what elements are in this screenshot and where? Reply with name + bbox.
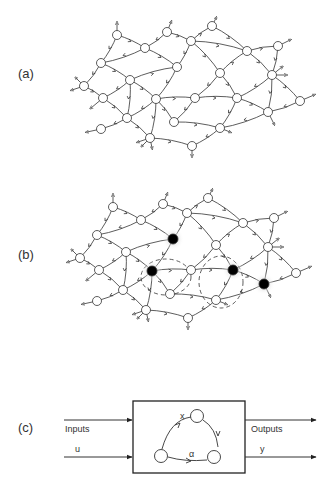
edge-arrowhead	[89, 243, 92, 246]
edge-arrowhead	[117, 86, 120, 89]
edge-arrowhead	[156, 37, 159, 40]
edge-arrowhead	[113, 258, 116, 261]
edge-arrowhead	[252, 232, 255, 235]
network-node	[122, 248, 131, 257]
network-node	[166, 290, 175, 299]
network-node	[152, 95, 161, 104]
edge-arrowhead	[194, 123, 197, 126]
edge-arrowhead	[112, 69, 115, 72]
edge-arrowhead	[190, 295, 193, 298]
network-node	[268, 71, 277, 80]
network-node	[243, 47, 252, 56]
edge-arrowhead	[93, 71, 96, 74]
edge-arrowhead	[108, 241, 111, 244]
network-node	[93, 231, 102, 240]
highlighted-node	[259, 279, 269, 289]
network-node	[187, 266, 196, 275]
edge-arrowhead	[146, 245, 149, 248]
edge-arrowhead	[150, 73, 153, 76]
node-u	[155, 450, 168, 463]
edge-arrowhead	[123, 53, 126, 56]
figure-canvas: Inputs u Outputs y x α	[0, 0, 332, 491]
highlighted-node	[228, 265, 238, 275]
network-node	[109, 203, 118, 212]
edge-arrowhead	[142, 106, 145, 109]
edge-arrowhead	[114, 121, 117, 124]
network-node	[95, 266, 104, 275]
edge-arrowhead	[105, 218, 108, 221]
edge-arrowhead	[152, 209, 155, 212]
network-node	[97, 125, 106, 134]
edge-arrowhead	[202, 54, 205, 57]
network-node	[292, 269, 301, 278]
network-node	[233, 94, 242, 103]
edge-arrowhead	[216, 44, 219, 47]
edge-arrowhead	[226, 82, 229, 85]
network-node	[126, 76, 135, 85]
edge-arrowhead	[204, 254, 207, 257]
output-symbol: y	[260, 444, 265, 454]
network-node	[204, 194, 213, 203]
highlighted-node	[147, 266, 157, 276]
network-node	[212, 296, 221, 305]
network-node	[239, 219, 248, 228]
input-symbol: u	[75, 444, 80, 454]
edge-arrowhead	[284, 104, 287, 107]
edge-arrowhead	[226, 234, 229, 237]
network-node	[296, 97, 305, 106]
network-node	[184, 314, 193, 323]
network-node	[146, 134, 155, 143]
network-node	[99, 94, 108, 103]
edge-arrowhead	[230, 62, 233, 65]
state-symbol: x	[180, 411, 185, 421]
block-diagram: Inputs u Outputs y x α	[64, 401, 316, 473]
network-node	[208, 22, 217, 31]
edge-arrowhead	[251, 256, 254, 259]
outputs-label: Outputs	[251, 424, 283, 434]
edge-arrowhead	[279, 257, 282, 260]
network-node	[173, 63, 182, 72]
param-symbol: α	[189, 449, 194, 459]
network-node	[141, 44, 150, 53]
edge-arrowhead	[280, 276, 283, 279]
edge-arrowhead	[255, 84, 258, 87]
edge-arrowhead	[119, 225, 122, 228]
node-x	[191, 410, 204, 423]
network-node	[216, 69, 225, 78]
network-node	[170, 118, 179, 127]
edge-arrowhead	[225, 282, 228, 285]
edge-arrowhead	[256, 60, 259, 63]
network-node	[76, 254, 85, 263]
edge-arrowhead	[109, 46, 112, 49]
edge-arrowhead	[138, 278, 141, 281]
network-node	[163, 28, 172, 37]
edge-arrowhead	[259, 47, 262, 50]
edge-arrowhead	[255, 219, 258, 222]
network-node	[212, 241, 221, 250]
edge-arrowhead	[244, 118, 247, 121]
edge-arrowhead	[283, 85, 286, 88]
network-node	[93, 297, 102, 306]
network-b	[68, 190, 310, 328]
network-node	[264, 243, 273, 252]
edge-arrowhead	[169, 269, 172, 272]
edge-arrowhead	[198, 34, 201, 37]
edge-arrowhead	[213, 96, 216, 99]
edge-arrowhead	[140, 87, 143, 90]
edge-arrowhead	[110, 293, 113, 296]
edge-arrowhead	[212, 216, 215, 219]
node-y	[208, 451, 221, 464]
edge-arrowhead	[208, 82, 211, 85]
network-node	[191, 94, 200, 103]
inputs-label: Inputs	[65, 424, 90, 434]
network-node	[270, 214, 279, 223]
edge-arrowhead	[136, 259, 139, 262]
network-node	[119, 286, 128, 295]
network-a	[72, 18, 314, 156]
network-node	[137, 216, 146, 225]
highlighted-node	[168, 234, 178, 244]
edge-arrowhead	[229, 110, 232, 113]
network-node	[142, 306, 151, 315]
network-node	[80, 82, 89, 91]
network-node	[188, 142, 197, 151]
